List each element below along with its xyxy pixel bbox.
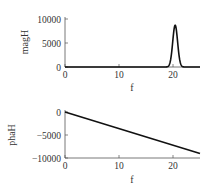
y-tick-label: 0 [56,108,61,118]
x-tick-label: 10 [114,70,124,80]
x-tick-label: 0 [63,70,68,80]
phase-plot: 01020 −10000−50000 f phaH [6,108,200,186]
x-tick-label: 10 [114,161,124,171]
y-tick-label: 10000 [37,15,61,25]
x-axis-label: f [130,174,134,185]
chart-figure: 01020 0500010000 f magH 01020 −10000−500… [0,0,210,192]
x-tick-label: 0 [63,161,68,171]
x-axis-label: f [130,82,134,93]
y-tick-label: 5000 [42,39,61,49]
y-axis-label: magH [19,30,30,54]
x-tick-label: 20 [168,70,178,80]
magnitude-plot: 01020 0500010000 f magH [19,15,200,94]
y-tick-label: 0 [56,63,61,73]
phaH-line [65,112,200,153]
y-axis-label: phaH [6,124,17,146]
x-tick-label: 20 [168,161,178,171]
y-tick-label: −10000 [32,154,61,164]
y-tick-label: −5000 [37,131,62,141]
magH-line [65,25,200,67]
